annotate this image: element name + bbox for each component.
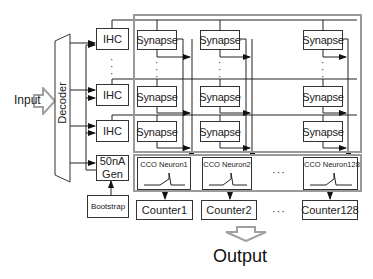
output-label: Output: [213, 246, 267, 267]
synapse-r2-c1: Synapse: [137, 86, 177, 107]
ihc-block-2: IHC: [96, 84, 129, 106]
decoder-label: Decoder: [56, 82, 68, 124]
horizontal-ellipsis-counters: ···: [272, 205, 286, 217]
synapse-r2-c3: Synapse: [303, 86, 343, 107]
cco-neuron-2: CCO Neuron2: [202, 157, 252, 190]
spike-waveform-icon: [203, 158, 253, 191]
bootstrap-block: Bootstrap: [87, 195, 129, 218]
current-gen-line2: Gen: [102, 168, 123, 181]
spike-waveform-icon: [304, 158, 359, 191]
counter-128: Counter128: [302, 200, 358, 220]
vertical-ellipsis-col1: ···: [155, 59, 159, 80]
synapse-r3-c1: Synapse: [137, 121, 177, 142]
synapse-r2-c2: Synapse: [200, 86, 240, 107]
synapse-r3-c2: Synapse: [200, 121, 240, 142]
vertical-ellipsis-col2: ···: [218, 59, 222, 80]
ihc-block-1: IHC: [96, 28, 129, 50]
synapse-r3-c3: Synapse: [303, 121, 343, 142]
neuromorphic-architecture-diagram: Input Decoder IHC ··· IHC IHC 50nA Gen B…: [0, 0, 373, 279]
vertical-ellipsis-ihc: ···: [110, 56, 114, 77]
counter-1: Counter1: [136, 200, 193, 220]
synapse-r1-c1: Synapse: [137, 30, 177, 50]
spike-waveform-icon: [138, 158, 192, 191]
counter-2: Counter2: [201, 200, 257, 220]
input-label: Input: [14, 93, 41, 107]
vertical-ellipsis-col3: ···: [321, 59, 325, 80]
current-generator-50na: 50nA Gen: [96, 155, 129, 181]
cco-neuron-128: CCO Neuron128: [303, 157, 358, 190]
cco-neuron-1: CCO Neuron1: [137, 157, 191, 190]
synapse-r1-c3: Synapse: [303, 30, 343, 50]
synapse-r1-c2: Synapse: [200, 30, 240, 50]
ihc-block-3: IHC: [96, 120, 129, 142]
current-gen-line1: 50nA: [100, 155, 126, 168]
output-arrow-icon: [223, 226, 269, 242]
horizontal-ellipsis-neurons: ···: [272, 166, 286, 178]
